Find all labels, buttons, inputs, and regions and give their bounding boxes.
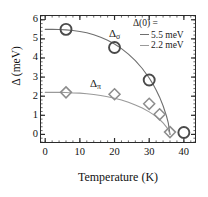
x-tick-label: 40 — [172, 147, 196, 157]
y-tick-label: 6 — [22, 14, 38, 24]
pi-series-annotation: Δπ — [90, 77, 101, 91]
x-tick-label: 0 — [33, 147, 57, 157]
legend-entry-label: 2.2 meV — [151, 40, 184, 51]
x-axis-title: Temperature (K) — [40, 170, 196, 185]
y-tick-label: 0 — [22, 129, 38, 139]
sigma-series-annotation: Δσ — [109, 27, 120, 41]
legend-entry-0: 5.5 meV — [140, 30, 184, 41]
y-tick-label: 5 — [22, 33, 38, 43]
x-tick-label: 10 — [68, 147, 92, 157]
y-tick-label: 3 — [22, 72, 38, 82]
x-tick-label: 30 — [137, 147, 161, 157]
x-tick-labels: 010203040 — [0, 147, 208, 161]
sigma-subscript: σ — [116, 32, 120, 41]
y-tick-label: 4 — [22, 52, 38, 62]
figure: 0123456 010203040 Δ (meV) Temperature (K… — [0, 0, 208, 197]
legend-title: Δ(0) = — [133, 18, 184, 29]
x-tick-label: 20 — [103, 147, 127, 157]
legend-entry-1: 2.2 meV — [140, 40, 184, 51]
legend: Δ(0) = 5.5 meV 2.2 meV — [133, 18, 184, 51]
pi-subscript: π — [97, 82, 101, 91]
legend-line-swatch-icon — [140, 34, 149, 35]
legend-entry-label: 5.5 meV — [151, 30, 184, 41]
y-tick-label: 1 — [22, 110, 38, 120]
y-axis-title: Δ (meV) — [10, 22, 22, 110]
legend-line-swatch-icon — [140, 45, 149, 46]
y-tick-label: 2 — [22, 91, 38, 101]
